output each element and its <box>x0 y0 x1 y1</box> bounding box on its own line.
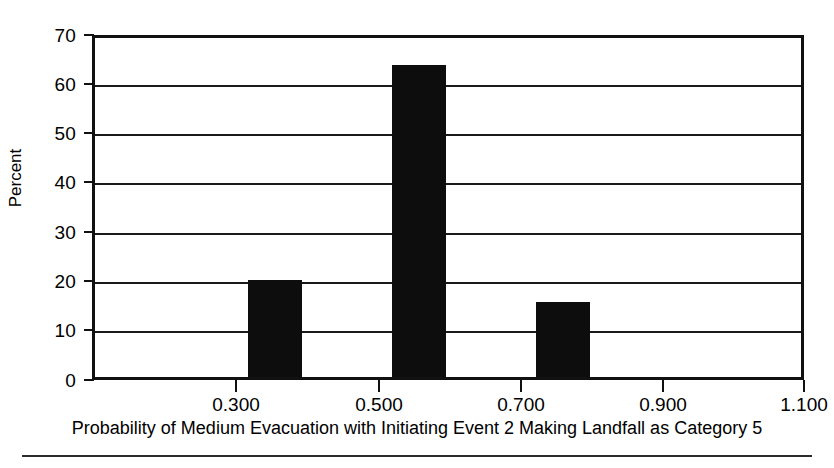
x-tick-mark <box>803 380 805 392</box>
plot-area <box>92 35 804 380</box>
gridline-60 <box>95 85 801 87</box>
x-axis: 0.300 0.500 0.700 0.900 1.100 <box>0 380 834 394</box>
gridline-50 <box>95 134 801 136</box>
gridline-40 <box>95 183 801 185</box>
x-axis-title: Probability of Medium Evacuation with In… <box>0 418 834 439</box>
y-tick-label: 30 <box>54 223 76 242</box>
gridline-10 <box>95 331 801 333</box>
y-tick-label: 50 <box>54 124 76 143</box>
x-tick-mark <box>378 380 380 392</box>
y-tick-label: 60 <box>54 75 76 94</box>
horizontal-rule <box>22 455 812 457</box>
gridline-20 <box>95 282 801 284</box>
histogram-figure: Percent 70 60 50 40 30 20 10 0 0.300 <box>0 0 834 468</box>
y-tick-label: 20 <box>54 272 76 291</box>
bar <box>392 65 446 377</box>
y-tick-label: 10 <box>54 321 76 340</box>
y-tick-label: 70 <box>54 26 76 45</box>
x-tick-mark <box>662 380 664 392</box>
x-tick-mark <box>235 380 237 392</box>
bar <box>248 280 302 377</box>
x-tick-label: 1.100 <box>780 394 828 416</box>
gridline-30 <box>95 233 801 235</box>
y-tick-label: 40 <box>54 173 76 192</box>
x-tick-label: 0.700 <box>497 394 545 416</box>
bar <box>536 302 590 377</box>
x-tick-label: 0.500 <box>355 394 403 416</box>
x-tick-label: 0.300 <box>212 394 260 416</box>
x-tick-label: 0.900 <box>639 394 687 416</box>
y-axis: 70 60 50 40 30 20 10 0 <box>0 0 92 468</box>
x-tick-mark <box>520 380 522 392</box>
